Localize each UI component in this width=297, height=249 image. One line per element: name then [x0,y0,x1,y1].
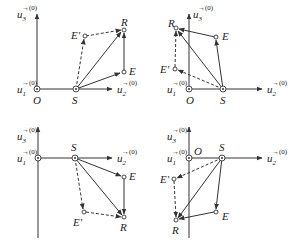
label-R: R [120,16,128,28]
vector-S-R [75,158,122,215]
label-R: R [167,17,175,29]
point-Ep [172,177,176,181]
panel-bottom-right: u3 →(0) u1 →(0) u2 →(0) O S E' E R [159,126,288,238]
label-Ep: E' [159,173,170,185]
label-Ep: E' [72,216,83,228]
label-S: S [220,94,226,106]
point-E [122,70,126,74]
u2-superscript: →(0) [272,148,288,156]
label-S: S [72,94,78,106]
label-E: E [128,170,136,182]
u3-superscript: →(0) [198,4,214,12]
u2-superscript: →(0) [272,79,288,87]
panel-top-right: u3 →(0) u1 →(0) u2 →(0) O S R E E' [159,4,288,106]
vector-E-R [179,212,214,219]
label-Ep: E' [159,63,170,75]
label-O: O [186,94,194,106]
label-S: S [219,141,225,153]
vector-Ep-R [86,30,121,36]
point-Ep [82,210,86,214]
vector-Ep-R [174,181,176,217]
point-R [122,215,126,219]
label-O: O [33,94,41,106]
vector-E-R [179,29,215,37]
u3-superscript: →(0) [22,126,38,134]
label-R: R [171,224,179,236]
vector-diagram: u3 →(0) u1 →(0) u2 →(0) O S R E E' u3 →(… [0,0,297,249]
u2-superscript: →(0) [122,79,138,87]
vector-Ep-R [86,212,121,217]
vector-S-R [178,158,222,218]
label-R: R [119,221,127,233]
point-E [214,210,218,214]
u3-superscript: →(0) [172,126,188,134]
point-R [174,218,178,222]
label-O: O [194,145,202,157]
vector-Ep-R [175,31,176,67]
label-E: E [221,30,229,42]
u1-superscript: →(0) [172,79,188,87]
point-E [214,35,218,39]
label-E: E [221,210,229,222]
label-S: S [71,141,77,153]
panel-top-left: u3 →(0) u1 →(0) u2 →(0) O S R E E' [17,4,138,106]
point-E [122,175,126,179]
vector-S-Ep [76,39,84,89]
u1-superscript: →(0) [22,148,38,156]
label-E: E [128,65,136,77]
u2-superscript: →(0) [122,148,138,156]
u3-superscript: →(0) [22,4,38,12]
point-Ep [173,67,177,71]
u1-superscript: →(0) [22,79,38,87]
point-Ep [83,34,87,38]
panel-bottom-left: u3 →(0) u1 →(0) u2 →(0) S E E' R [17,126,138,238]
point-R [122,28,126,32]
label-Ep: E' [70,29,81,41]
u1-superscript: →(0) [172,148,188,156]
